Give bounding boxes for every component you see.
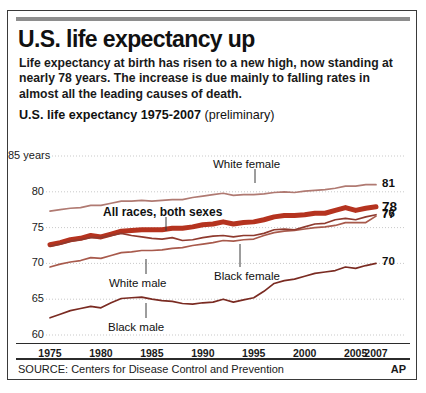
series-annotation-label: Black female (214, 270, 280, 282)
y-axis-tick-label: 60 (8, 328, 44, 340)
x-axis-tick-label: 1975 (28, 347, 72, 359)
series-end-value: 70 (382, 255, 395, 267)
news-graphic-panel: U.S. life expectancy up Life expectancy … (7, 10, 417, 380)
x-axis-rule (16, 343, 410, 344)
series-annotation-label: White female (213, 158, 280, 170)
series-line (50, 263, 376, 317)
series-annotation-label: Black male (108, 321, 164, 333)
series-line (50, 215, 376, 247)
line-chart-plot (8, 131, 416, 359)
x-axis-tick-label: 1980 (79, 347, 123, 359)
y-axis-tick-label: 70 (8, 256, 44, 268)
x-axis-tick-label: 2000 (283, 347, 327, 359)
series-annotation-label: All races, both sexes (103, 205, 222, 219)
agency-credit: AP (391, 363, 406, 375)
chart-title: U.S. life expectancy 1975-2007 (prelimin… (19, 108, 275, 122)
x-axis-tick-label: 1995 (232, 347, 276, 359)
top-rule-divider (16, 17, 410, 21)
series-annotation-label: White male (109, 277, 167, 289)
page-title: U.S. life expectancy up (18, 27, 408, 52)
x-axis-tick-label: 1985 (130, 347, 174, 359)
chart-svg (8, 131, 416, 359)
x-axis-tick-label: 1990 (181, 347, 225, 359)
y-axis-tick-label: 65 (8, 292, 44, 304)
y-axis-tick-label: 75 (8, 221, 44, 233)
summary-deck: Life expectancy at birth has risen to a … (19, 56, 407, 102)
x-axis-tick-label: 2007 (354, 347, 398, 359)
y-axis-tick-label: 80 (8, 185, 44, 197)
chart-title-main: U.S. life expectancy 1975-2007 (19, 108, 201, 122)
y-axis-tick-label: 85 years (8, 149, 44, 161)
series-end-value: 76 (382, 207, 395, 219)
chart-title-note: (preliminary) (205, 108, 275, 122)
source-note: SOURCE: Centers for Disease Control and … (18, 363, 284, 375)
series-end-value: 81 (382, 177, 395, 189)
